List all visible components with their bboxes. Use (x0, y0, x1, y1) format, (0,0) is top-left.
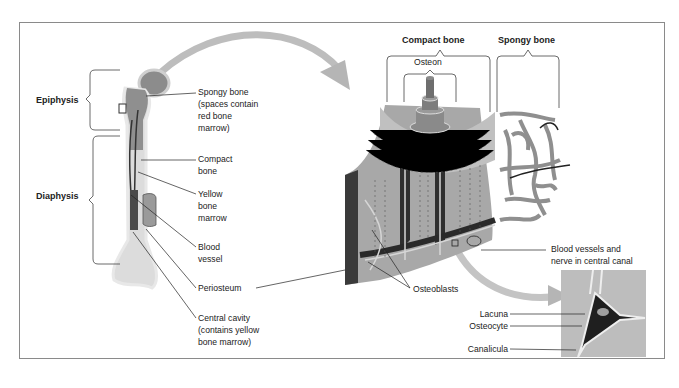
label-osteon: Osteon (414, 56, 442, 68)
label-canalicula: Canalicula (450, 343, 508, 355)
label-spongy-bone: Spongy bone (spaces contain red bone mar… (198, 86, 258, 134)
label-diaphysis: Diaphysis (36, 190, 79, 202)
label-osteocyte: Osteocyte (450, 320, 508, 332)
label-compact-bone: Compact bone (198, 153, 232, 177)
label-epiphysis: Epiphysis (36, 94, 79, 106)
label-blood-vessel: Blood vessel (198, 241, 222, 265)
label-periosteum: Periosteum (198, 282, 241, 294)
bone-illustration (0, 0, 679, 388)
compact-bone-block (345, 76, 495, 285)
label-central-cavity: Central cavity (contains yellow bone mar… (198, 312, 259, 348)
long-bone (113, 70, 169, 288)
label-osteoblasts: Osteoblasts (413, 283, 458, 295)
label-blood-vessels-nerve: Blood vessels and nerve in central canal (551, 243, 633, 267)
label-compact-bone-detail: Compact bone (402, 34, 465, 46)
label-lacuna: Lacuna (450, 308, 508, 320)
osteocyte-inset (510, 270, 646, 357)
label-spongy-bone-detail: Spongy bone (498, 34, 555, 46)
zoom-arrow-bottom (458, 252, 560, 297)
spongy-bone-block (500, 113, 560, 220)
label-yellow-bone-marrow: Yellow bone marrow (198, 188, 227, 224)
zoom-arrow-top (160, 35, 340, 73)
